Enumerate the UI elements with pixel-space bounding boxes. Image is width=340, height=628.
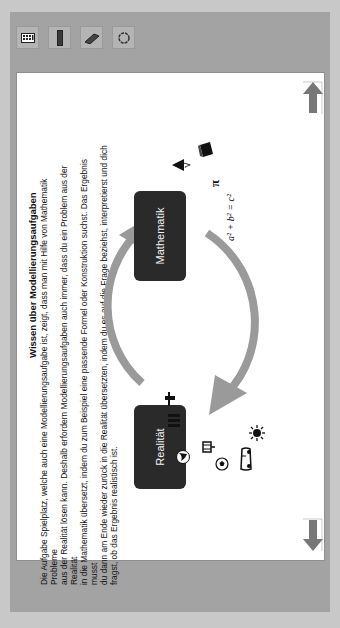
globe-icon bbox=[175, 449, 191, 465]
marker-button[interactable] bbox=[48, 26, 71, 49]
math-box: Mathematik bbox=[134, 191, 186, 281]
pi-icon: π bbox=[208, 180, 221, 187]
eraser-icon bbox=[84, 32, 100, 44]
marker-icon bbox=[57, 30, 63, 46]
books-icon bbox=[167, 413, 181, 429]
reality-box-label: Realität bbox=[154, 428, 166, 465]
paragraph-line: aus der Realität lösen kann. Deshalb erf… bbox=[59, 145, 79, 585]
sun-icon bbox=[249, 425, 265, 441]
previous-page-button[interactable] bbox=[302, 517, 324, 557]
keyboard-button[interactable] bbox=[16, 26, 39, 49]
next-page-button[interactable] bbox=[302, 80, 324, 120]
car-icon bbox=[239, 446, 253, 472]
paragraph-line: Die Aufgabe Spielplatz, welche auch eine… bbox=[39, 145, 59, 585]
lasso-button[interactable] bbox=[112, 26, 135, 49]
arrow-up-icon bbox=[302, 80, 324, 116]
content-panel: Wissen über Modellierungsaufgaben Die Au… bbox=[16, 72, 325, 561]
shopping-cart-icon bbox=[202, 439, 216, 455]
soccer-ball-icon bbox=[215, 457, 229, 471]
page-title: Wissen über Modellierungsaufgaben bbox=[27, 192, 38, 358]
eraser-button[interactable] bbox=[80, 26, 103, 49]
lasso-icon bbox=[117, 31, 131, 45]
cube-icon bbox=[197, 141, 215, 159]
arrow-down-icon bbox=[302, 517, 324, 553]
app-frame: Wissen über Modellierungsaufgaben Die Au… bbox=[10, 12, 330, 612]
math-box-label: Mathematik bbox=[154, 208, 166, 265]
pythagoras-formula: a² + b² = c² bbox=[225, 194, 236, 241]
keyboard-icon bbox=[21, 33, 35, 43]
paragraph-line: in die Mathematik übersetzt, indem du zu… bbox=[79, 145, 99, 585]
tower-icon bbox=[164, 391, 176, 407]
sqrt-icon: √ bbox=[180, 162, 192, 169]
